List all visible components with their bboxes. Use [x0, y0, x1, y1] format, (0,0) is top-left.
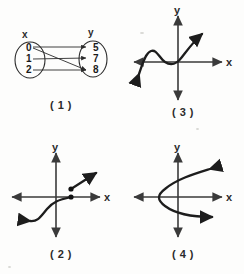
panel-sideways-parabola-graph: x y ( 4 ): [122, 137, 244, 274]
sideways-parabola-curve: [159, 169, 212, 217]
panel-4-caption: ( 4 ): [122, 248, 244, 260]
range-element-7: 7: [93, 53, 99, 64]
range-element-8: 8: [93, 64, 99, 75]
y-axis-label: y: [174, 141, 181, 153]
x-axis-label: x: [226, 191, 233, 203]
mapping-arrow-1-to-7: [33, 58, 86, 59]
panel-1-caption: ( 1 ): [0, 99, 122, 111]
panel-cubic-graph: x y ( 3 ): [122, 0, 244, 137]
panel-piecewise-graph: x y ( 2 ): [0, 137, 122, 274]
x-axis-label: x: [104, 191, 111, 203]
piecewise-upper-ray: [71, 173, 96, 189]
domain-element-1: 1: [26, 53, 32, 64]
y-axis-label: y: [174, 4, 181, 16]
scan-speck: [196, 128, 199, 130]
panel-2-caption: ( 2 ): [0, 248, 122, 260]
scan-speck: [8, 266, 11, 268]
x-axis-label: x: [226, 56, 233, 68]
mapping-diagram-figure: x y 0 1 2 5 7 8: [0, 0, 122, 137]
range-set-label: y: [88, 27, 94, 38]
range-element-5: 5: [93, 42, 99, 53]
domain-element-2: 2: [26, 64, 32, 75]
domain-element-0: 0: [26, 42, 32, 53]
domain-set-label: x: [22, 29, 28, 40]
closed-point-upper: [68, 186, 73, 191]
panel-3-caption: ( 3 ): [122, 106, 244, 118]
worksheet-sheet: x y 0 1 2 5 7 8 ( 1 ): [0, 0, 244, 274]
panel-mapping-diagram: x y 0 1 2 5 7 8 ( 1 ): [0, 0, 122, 137]
scan-speck: [140, 32, 144, 34]
closed-point-lower: [68, 194, 73, 199]
y-axis-label: y: [52, 141, 59, 153]
piecewise-lower-branch: [30, 197, 71, 221]
cubic-curve: [139, 34, 202, 74]
